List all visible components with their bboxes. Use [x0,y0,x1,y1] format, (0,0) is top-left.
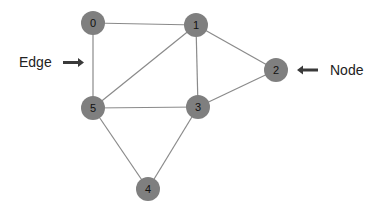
edge-callout-label: Edge [19,54,52,70]
arrow-right-icon [63,58,84,67]
node-label: 2 [273,64,279,76]
node-4: 4 [136,177,160,201]
arrow-left-icon [297,66,318,75]
edge-0-1 [93,23,196,25]
node-0: 0 [81,11,105,35]
edge-2-3 [198,70,276,107]
node-label: 1 [193,19,199,31]
node-3: 3 [186,95,210,119]
edge-3-4 [148,107,198,189]
node-label: 3 [195,101,201,113]
edge-1-3 [196,25,198,107]
node-5: 5 [81,96,105,120]
node-label: 4 [145,183,151,195]
node-2: 2 [264,58,288,82]
node-callout-label: Node [330,62,364,78]
edge-1-2 [196,25,276,70]
edge-callout: Edge [19,54,84,70]
node-1: 1 [184,13,208,37]
node-label: 0 [90,17,96,29]
graph-diagram: 0 1 2 3 4 5 Edge Node [0,0,379,210]
node-callout: Node [297,62,364,78]
edge-5-3 [93,107,198,108]
edge-1-5 [93,25,196,108]
edge-5-4 [93,108,148,189]
edges [93,23,276,189]
node-label: 5 [90,102,96,114]
